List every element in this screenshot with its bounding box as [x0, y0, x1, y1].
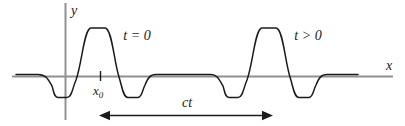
- x0-label: x0: [92, 83, 104, 100]
- t0-label: t = 0: [123, 28, 150, 43]
- arrow-head-right-icon: [262, 111, 273, 120]
- figure-canvas: y x t = 0 t > 0 x0 ct: [0, 0, 405, 126]
- ct-arrow: [99, 111, 273, 120]
- ct-label: ct: [182, 95, 193, 110]
- arrow-head-left-icon: [99, 111, 110, 120]
- y-axis-label: y: [69, 3, 78, 18]
- x0-label-subscript: 0: [99, 90, 104, 100]
- t-greater-0-label: t > 0: [294, 28, 321, 43]
- wave-pulse-figure: y x t = 0 t > 0 x0 ct: [0, 0, 405, 126]
- x-axis-label: x: [385, 58, 393, 73]
